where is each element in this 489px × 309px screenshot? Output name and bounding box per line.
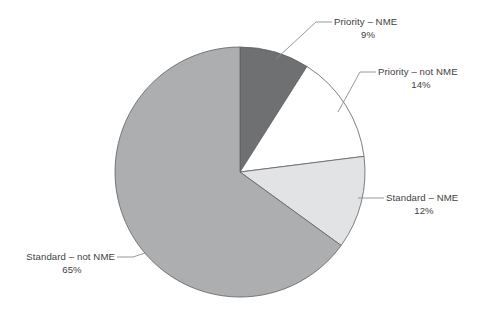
leader-line-standard-not-nme (117, 253, 145, 257)
pie-slices (115, 47, 365, 297)
slice-label-priority-nme: Priority – NME (334, 16, 397, 27)
slice-label-standard-nme: Standard – NME (386, 192, 458, 203)
slice-label-priority-not-nme: Priority – not NME (378, 66, 458, 77)
slice-label-standard-not-nme: Standard – not NME (26, 251, 115, 262)
leader-line-priority-nme (276, 22, 332, 59)
slice-value-priority-not-nme: 14% (411, 79, 431, 90)
slice-value-standard-not-nme: 65% (62, 264, 82, 275)
chart-canvas: Priority – NME 9% Priority – not NME 14%… (0, 0, 489, 309)
slice-value-standard-nme: 12% (414, 205, 434, 216)
pie-chart: Priority – NME 9% Priority – not NME 14%… (0, 0, 489, 309)
slice-value-priority-nme: 9% (361, 29, 375, 40)
